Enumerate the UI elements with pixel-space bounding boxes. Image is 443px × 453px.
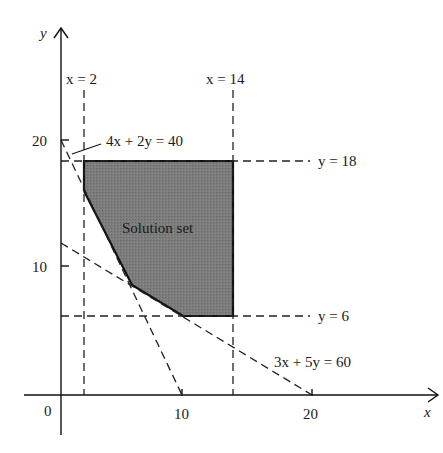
y-tick-label-10: 10 (32, 259, 47, 275)
label-x-eq-14: x = 14 (206, 71, 245, 87)
x-tick-label-20: 20 (303, 406, 318, 422)
solution-region (84, 161, 233, 316)
x-tick-label-10: 10 (174, 406, 189, 422)
label-y-eq-6: y = 6 (318, 308, 349, 324)
y-tick-label-20: 20 (32, 133, 47, 149)
origin-label: 0 (44, 403, 52, 419)
lp-diagram: y x 0 10 20 10 20 x = 2 x = 14 y = 18 y … (0, 0, 443, 453)
x-axis-label: x (423, 404, 431, 420)
region-label: Solution set (122, 220, 194, 236)
label-3x-5y-60: 3x + 5y = 60 (274, 354, 351, 370)
label-x-eq-2: x = 2 (66, 71, 97, 87)
y-axis-label: y (38, 25, 47, 41)
label-y-eq-18: y = 18 (318, 153, 356, 169)
label-leader-4x-2y (72, 144, 101, 154)
label-4x-2y-40: 4x + 2y = 40 (106, 133, 183, 149)
